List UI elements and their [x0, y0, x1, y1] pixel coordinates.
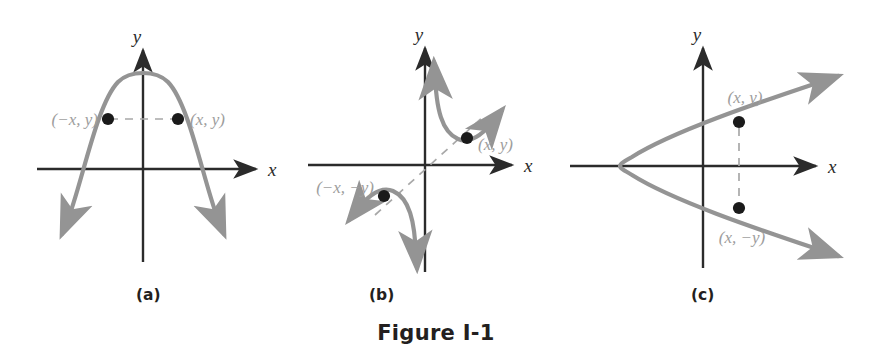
point-reflected — [102, 113, 114, 125]
curve-branch-upper — [435, 72, 496, 140]
panel-c: (x, y) (x, −y) y x — [570, 0, 872, 285]
point-label-reflected: (−x, −y) — [316, 178, 374, 197]
curve-arrow-down — [416, 245, 417, 268]
x-axis-label: x — [523, 155, 533, 176]
curve-arrow-upper-right — [490, 110, 502, 125]
panel-b-graph: (x, y) (−x, −y) y x — [290, 0, 570, 285]
point-original — [733, 116, 745, 128]
y-axis-label: y — [131, 26, 142, 47]
x-axis-label: x — [267, 159, 277, 180]
y-axis-label: y — [413, 24, 424, 45]
point-label-reflected: (x, −y) — [719, 228, 766, 247]
panel-caption-a: (a) — [136, 286, 161, 304]
curve-arrow-left — [62, 215, 70, 234]
point-label-original: (x, y) — [478, 135, 513, 154]
figure-container: (−x, y) (x, y) y x — [0, 0, 872, 363]
figure-caption: Figure I-1 — [0, 321, 872, 345]
x-axis-label: x — [827, 156, 837, 177]
curve-arrow-up — [434, 62, 435, 85]
panel-caption-b: (b) — [369, 286, 394, 304]
panel-a-graph: (−x, y) (x, y) y x — [0, 0, 290, 285]
point-reflected — [733, 202, 745, 214]
panel-c-graph: (x, y) (x, −y) y x — [570, 0, 872, 285]
point-label-original: (x, y) — [190, 110, 225, 129]
point-original — [172, 113, 184, 125]
panel-b: (x, y) (−x, −y) y x — [290, 0, 570, 285]
point-label-reflected: (−x, y) — [52, 110, 99, 129]
point-original — [461, 132, 473, 144]
panel-caption-c: (c) — [691, 286, 714, 304]
curve-arrow-lower-left — [349, 205, 361, 220]
point-label-original: (x, y) — [728, 88, 763, 107]
y-axis-label: y — [691, 24, 702, 45]
point-reflected — [378, 190, 390, 202]
panel-a: (−x, y) (x, y) y x — [0, 0, 290, 285]
curve-arrow-right — [216, 215, 224, 234]
